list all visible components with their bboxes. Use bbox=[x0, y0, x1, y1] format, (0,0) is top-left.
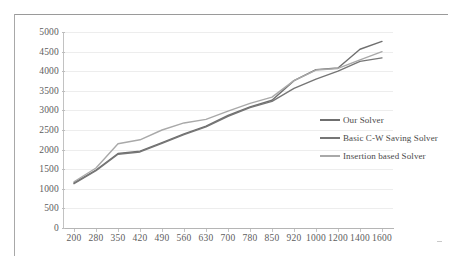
y-tick-label: 4500 bbox=[39, 47, 59, 57]
x-tick-mark bbox=[382, 229, 383, 232]
x-tick-label: 1600 bbox=[362, 233, 402, 244]
x-tick-mark bbox=[118, 229, 119, 232]
y-tick-mark bbox=[62, 71, 65, 72]
page-frame-speck bbox=[437, 241, 442, 242]
x-axis: 2002803504204905606307007808509201000120… bbox=[63, 233, 393, 247]
legend-item-label: Insertion based Solver bbox=[343, 151, 426, 161]
legend-item-label: Basic C-W Saving Solver bbox=[343, 133, 438, 143]
y-tick-label: 3500 bbox=[39, 86, 59, 96]
y-tick-mark bbox=[62, 150, 65, 151]
y-tick-mark bbox=[62, 169, 65, 170]
y-tick-label: 3000 bbox=[39, 105, 59, 115]
page-frame-top-rule bbox=[14, 14, 448, 15]
y-tick-mark bbox=[62, 130, 65, 131]
y-tick-mark bbox=[62, 110, 65, 111]
x-tick-mark bbox=[184, 229, 185, 232]
x-tick-mark bbox=[140, 229, 141, 232]
x-tick-mark bbox=[74, 229, 75, 232]
y-axis: 0500100015002000250030003500400045005000 bbox=[18, 32, 59, 229]
y-tick-label: 500 bbox=[44, 203, 59, 213]
y-tick-mark bbox=[62, 91, 65, 92]
x-tick-mark bbox=[228, 229, 229, 232]
x-tick-mark bbox=[96, 229, 97, 232]
chart-legend: Our SolverBasic C-W Saving SolverInserti… bbox=[320, 112, 452, 166]
y-tick-label: 2000 bbox=[39, 145, 59, 155]
x-tick-mark bbox=[272, 229, 273, 232]
y-tick-label: 2500 bbox=[39, 125, 59, 135]
y-tick-mark bbox=[62, 228, 65, 229]
y-tick-label: 1000 bbox=[39, 184, 59, 194]
legend-color-swatch bbox=[320, 119, 340, 121]
y-tick-label: 1500 bbox=[39, 164, 59, 174]
legend-item[interactable]: Basic C-W Saving Solver bbox=[320, 130, 452, 145]
y-tick-label: 4000 bbox=[39, 66, 59, 76]
x-tick-mark bbox=[338, 229, 339, 232]
y-tick-label: 5000 bbox=[39, 27, 59, 37]
y-tick-mark bbox=[62, 189, 65, 190]
x-tick-mark bbox=[294, 229, 295, 232]
x-tick-mark bbox=[360, 229, 361, 232]
x-tick-mark bbox=[162, 229, 163, 232]
x-tick-mark bbox=[206, 229, 207, 232]
y-tick-mark bbox=[62, 52, 65, 53]
legend-color-swatch bbox=[320, 155, 340, 157]
legend-item-label: Our Solver bbox=[343, 115, 384, 125]
y-tick-mark bbox=[62, 32, 65, 33]
y-tick-label: 0 bbox=[54, 223, 59, 233]
legend-item[interactable]: Our Solver bbox=[320, 112, 452, 127]
x-tick-mark bbox=[316, 229, 317, 232]
x-tick-mark bbox=[250, 229, 251, 232]
legend-color-swatch bbox=[320, 137, 340, 139]
legend-item[interactable]: Insertion based Solver bbox=[320, 148, 452, 163]
chart-figure: 0500100015002000250030003500400045005000… bbox=[0, 0, 461, 267]
page-frame-left-rule bbox=[14, 14, 15, 256]
y-tick-mark bbox=[62, 208, 65, 209]
